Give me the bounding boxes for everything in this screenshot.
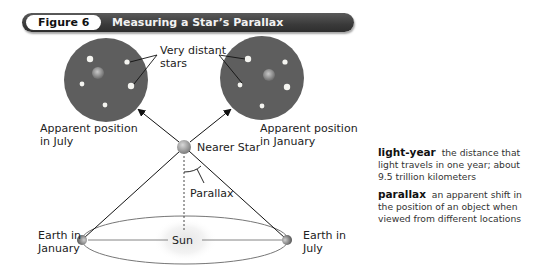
label-line: in January: [260, 135, 358, 148]
label-parallax: Parallax: [190, 187, 234, 200]
glossary-entry-light-year: light-year the distance that light trave…: [378, 146, 528, 183]
label-line: July: [303, 242, 346, 255]
label-line: Apparent position: [260, 122, 358, 135]
label-line: Very distant: [160, 44, 226, 57]
label-line: Earth in: [38, 229, 81, 242]
glossary-term: light-year: [378, 146, 436, 158]
label-line: in July: [40, 135, 138, 148]
label-line: January: [38, 242, 81, 255]
label-nearer-star: Nearer Star: [197, 141, 260, 154]
label-apparent-july: Apparent position in July: [40, 122, 138, 148]
label-line: Apparent position: [40, 122, 138, 135]
parallax-leader-line: [197, 169, 204, 183]
glossary-entry-parallax: parallax an apparent shift in the positi…: [378, 188, 528, 225]
nearer-star: [177, 140, 191, 154]
glossary-term: parallax: [378, 188, 426, 200]
label-earth-january: Earth in January: [38, 229, 81, 255]
earth-july: [282, 235, 292, 245]
label-very-distant-stars: Very distant stars: [160, 44, 226, 70]
label-apparent-january: Apparent position in January: [260, 122, 358, 148]
sky-disc-january: [220, 36, 304, 120]
label-line: Earth in: [303, 229, 346, 242]
label-line: stars: [160, 57, 226, 70]
label-earth-july: Earth in July: [303, 229, 346, 255]
label-sun: Sun: [172, 234, 193, 247]
sky-disc-july: [64, 38, 148, 122]
